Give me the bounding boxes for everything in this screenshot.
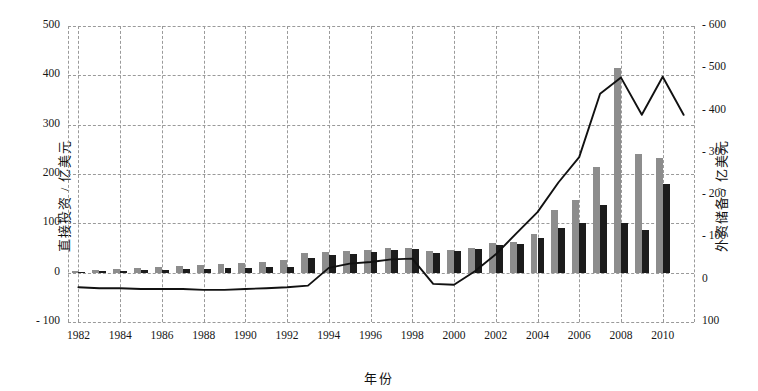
y2-tick-label: - 400 xyxy=(702,103,748,115)
y-tick-label: 0 xyxy=(14,265,60,277)
y2-tick-label: - 200 xyxy=(702,187,748,199)
foreign-reserve-line xyxy=(78,77,683,290)
y2-tick-label: - 500 xyxy=(702,60,748,72)
y-tick-label: 200 xyxy=(14,166,60,178)
y2-tick-label: - 100 xyxy=(702,229,748,241)
x-tick-label: 2010 xyxy=(633,329,693,341)
x-axis-title: 年份 xyxy=(0,368,758,387)
y-tick-label: 100 xyxy=(14,215,60,227)
plot-area xyxy=(68,26,694,322)
y-tick-label: 300 xyxy=(14,117,60,129)
y2-tick-label: - 300 xyxy=(702,145,748,157)
gridline-horizontal xyxy=(68,322,694,323)
y-tick-label: - 100 xyxy=(14,314,60,326)
line-series-svg xyxy=(68,26,694,322)
y2-tick-label: 0 xyxy=(702,272,748,284)
y2-tick-label: - 600 xyxy=(702,18,748,30)
plot-border xyxy=(694,26,695,322)
y2-tick-label: 100 xyxy=(702,314,748,326)
y-tick-label: 500 xyxy=(14,18,60,30)
y-tick-label: 400 xyxy=(14,67,60,79)
chart-container: 直接投资 / 亿美元 外资储备 / 亿美元 年份 500400300200100… xyxy=(0,0,758,391)
